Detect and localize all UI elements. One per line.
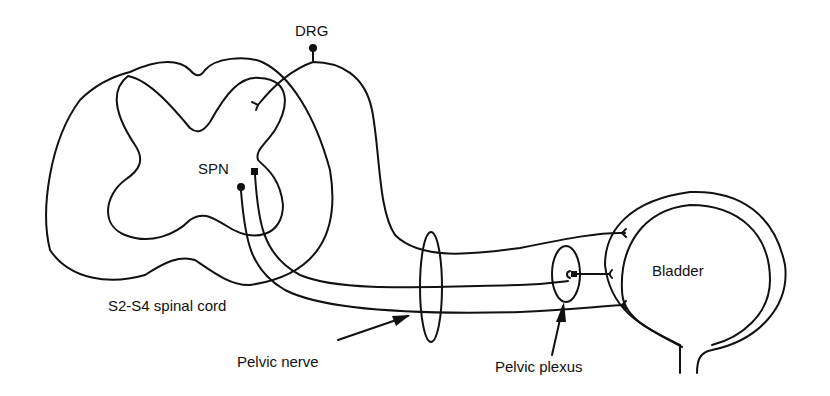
bladder-label: Bladder xyxy=(652,262,704,279)
pelvic-plexus-label: Pelvic plexus xyxy=(495,358,583,375)
afferent-fiber xyxy=(258,62,625,254)
bladder-outer-wall xyxy=(605,192,786,373)
afferent-terminal xyxy=(252,102,258,110)
pelvic-nerve-arrowhead xyxy=(392,315,410,326)
preganglionic-fiber-1 xyxy=(255,175,568,287)
grey-matter-outline xyxy=(108,76,285,239)
spinal-cord-outline xyxy=(46,58,332,285)
drg-label: DRG xyxy=(295,22,328,39)
spn-cell-body-1 xyxy=(251,168,258,175)
drg-cell-body xyxy=(309,44,317,52)
bladder-innervation-diagram: DRG SPN S2-S4 spinal cord Pelvic nerve P… xyxy=(0,0,830,396)
pelvic-nerve-label: Pelvic nerve xyxy=(237,353,319,370)
spn-cell-body-2 xyxy=(237,183,245,191)
diagram-drawing xyxy=(0,0,830,396)
synapse-marks xyxy=(567,229,626,309)
pelvic-plexus-arrowhead xyxy=(556,302,566,322)
spinal-cord-label: S2-S4 spinal cord xyxy=(108,297,226,314)
spn-label: SPN xyxy=(198,160,229,177)
bladder-inner-wall xyxy=(622,205,770,373)
